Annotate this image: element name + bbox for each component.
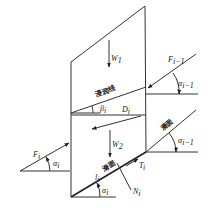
w1-force: W1 — [109, 40, 122, 67]
svg-text:αi: αi — [102, 186, 108, 197]
f-i-force: Fi αi — [20, 143, 70, 171]
incoming-arrow-icon — [20, 143, 69, 171]
svg-text:Fi: Fi — [32, 150, 40, 161]
bottom-forces: li 滑面 Ti Ni αi — [71, 159, 145, 198]
svg-text:Di: Di — [121, 105, 130, 116]
svg-text:浸润线: 浸润线 — [94, 84, 117, 99]
svg-text:Fi−1: Fi−1 — [167, 55, 185, 66]
svg-text:αi: αi — [53, 159, 59, 170]
svg-text:βi: βi — [99, 104, 106, 115]
beta-arc — [92, 106, 93, 113]
svg-text:Ni: Ni — [132, 187, 141, 198]
svg-text:W1: W1 — [111, 54, 122, 65]
left-arrow-icon — [92, 116, 141, 129]
wetting-line: 浸润线 βi — [71, 84, 146, 115]
alpha-prev-right-arc — [169, 133, 176, 152]
n-line — [117, 163, 131, 190]
w2-force: W2 — [110, 130, 123, 157]
svg-text:αi−1: αi−1 — [178, 136, 194, 147]
soil-slice-force-diagram: W1 浸润线 βi Di W2 Fi−1 αi−1 滑面 αi−1 — [0, 0, 214, 214]
f-prev-force: Fi−1 αi−1 — [146, 54, 198, 94]
svg-text:αi−1: αi−1 — [178, 79, 194, 90]
alpha-left-arc — [46, 157, 50, 171]
svg-text:Ti: Ti — [139, 161, 145, 172]
slip-surface-right: 滑面 αi−1 — [146, 110, 198, 152]
alpha-bottom-arc — [97, 183, 100, 197]
svg-text:W2: W2 — [112, 140, 123, 151]
